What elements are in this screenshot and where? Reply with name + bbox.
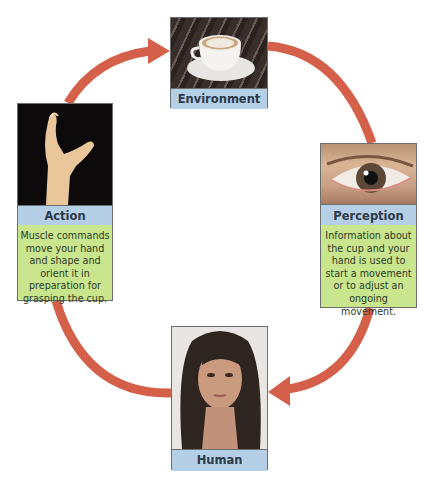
arrow-action-to-environment <box>68 51 150 103</box>
eye-image <box>321 144 416 204</box>
action-label: Action <box>18 205 112 227</box>
arrow-perception-to-human <box>288 308 370 389</box>
perception-node: Perception <box>320 143 417 226</box>
human-label: Human <box>172 449 267 471</box>
arrow-human-to-action <box>56 301 171 393</box>
eye-icon <box>321 144 416 204</box>
person-icon <box>172 327 267 449</box>
environment-node: Environment <box>170 17 268 108</box>
action-description: Muscle commands move your hand and shape… <box>17 225 113 301</box>
arrowhead-human-icon <box>268 376 290 406</box>
hand-icon <box>18 104 112 205</box>
human-node: Human <box>171 326 268 470</box>
action-node: Action <box>17 103 113 226</box>
environment-label: Environment <box>171 88 267 109</box>
perception-description: Information about the cup and your hand … <box>320 225 417 308</box>
coffee-cup-icon <box>171 18 267 88</box>
hand-image <box>18 104 112 205</box>
perception-label: Perception <box>321 204 416 227</box>
woman-portrait-image <box>172 327 267 449</box>
arrow-environment-to-perception <box>268 46 372 143</box>
arrowhead-environment-icon <box>148 38 170 64</box>
coffee-cup-image <box>171 18 267 88</box>
